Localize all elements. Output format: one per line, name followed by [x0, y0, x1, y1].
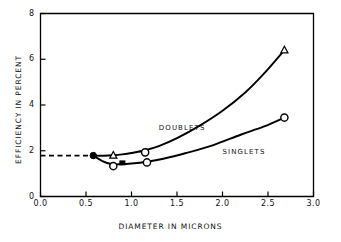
x-tick-label: 1.0 — [117, 199, 147, 208]
x-tick-label: 1.5 — [162, 199, 192, 208]
y-tick-label: 6 — [19, 54, 35, 63]
y-tick-label: 4 — [19, 100, 35, 109]
chart-figure: DIAMETER IN MICRONS EFFICIENCY IN PERCEN… — [0, 0, 341, 242]
x-tick-label: 2.5 — [253, 199, 283, 208]
y-tick-label: 2 — [19, 146, 35, 155]
y-tick-label: 0 — [19, 192, 35, 201]
x-tick-label: 0.5 — [71, 199, 101, 208]
y-tick-label: 8 — [19, 9, 35, 18]
x-tick-label: 2.0 — [208, 199, 238, 208]
x-axis-title: DIAMETER IN MICRONS — [0, 222, 341, 231]
axis-frame — [41, 14, 314, 197]
x-tick-label: 3.0 — [299, 199, 329, 208]
y-axis-title: EFFICIENCY IN PERCENT — [14, 45, 23, 175]
axis-ticks — [41, 14, 314, 197]
series-label-doublets: DOUBLETS — [159, 124, 206, 132]
series-label-singlets: SINGLETS — [223, 148, 266, 156]
